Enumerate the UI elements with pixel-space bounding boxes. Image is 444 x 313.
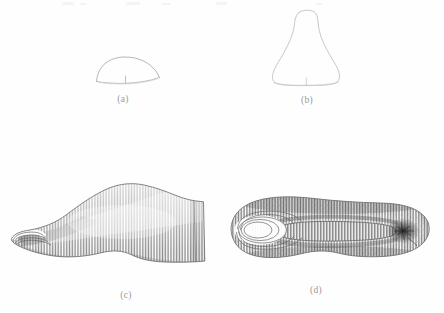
panel-c-side-view — [4, 176, 226, 284]
panel-a-caption: (a) — [103, 95, 143, 105]
panel-b-drawing — [258, 4, 354, 94]
scan-bleed-artifact — [0, 0, 444, 14]
panel-d-drawing — [218, 180, 440, 280]
figure-root: (a) (b) — [0, 0, 444, 313]
panel-c-drawing — [4, 176, 226, 284]
panel-b-caption: (b) — [287, 96, 327, 106]
panel-d-plan-view — [218, 180, 440, 280]
panel-a-cross-section — [88, 50, 168, 92]
panel-c-caption: (c) — [106, 291, 146, 301]
panel-d-caption: (d) — [296, 286, 336, 296]
panel-a-drawing — [88, 50, 168, 92]
panel-b-outline — [258, 4, 354, 94]
